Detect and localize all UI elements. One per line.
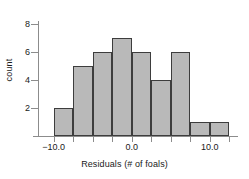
histogram-bar — [171, 52, 191, 136]
y-axis-tick-label: 2 — [14, 103, 30, 112]
histogram-bar — [54, 108, 74, 136]
histogram-figure: count 2468 −10.00.010.0 Residuals (# of … — [0, 0, 249, 179]
y-axis-tick-mark — [31, 24, 38, 25]
x-axis-tick-mark — [73, 137, 74, 142]
y-axis-tick-labels: 2468 — [14, 0, 30, 179]
y-axis-tick-label: 4 — [14, 75, 30, 84]
histogram-bar — [210, 122, 230, 136]
x-axis-tick-mark — [93, 137, 94, 142]
y-axis-tick-label: 6 — [14, 47, 30, 56]
x-axis-tick-label: 0.0 — [125, 143, 138, 152]
histogram-bar — [93, 52, 113, 136]
x-axis-tick-mark — [229, 137, 230, 142]
x-axis-line — [33, 136, 238, 137]
histogram-bar — [112, 38, 132, 136]
histogram-bar — [151, 80, 171, 136]
x-axis-tick-mark — [171, 137, 172, 142]
y-axis-tick-label: 8 — [14, 19, 30, 28]
x-axis-title: Residuals (# of foals) — [0, 159, 249, 169]
y-axis-tick-mark — [31, 80, 38, 81]
histogram-bar — [190, 122, 210, 136]
x-axis-tick-mark — [190, 137, 191, 142]
x-axis-tick-label: −10.0 — [42, 143, 65, 152]
x-axis-tick-mark — [112, 137, 113, 142]
histogram-bar — [132, 52, 152, 136]
y-axis-tick-mark — [31, 108, 38, 109]
x-axis-tick-mark — [151, 137, 152, 142]
x-axis-tick-label: 10.0 — [201, 143, 219, 152]
histogram-bar — [73, 66, 93, 136]
y-axis-tick-mark — [31, 52, 38, 53]
y-axis-title-text: count — [4, 58, 14, 81]
histogram-bars — [38, 18, 238, 136]
